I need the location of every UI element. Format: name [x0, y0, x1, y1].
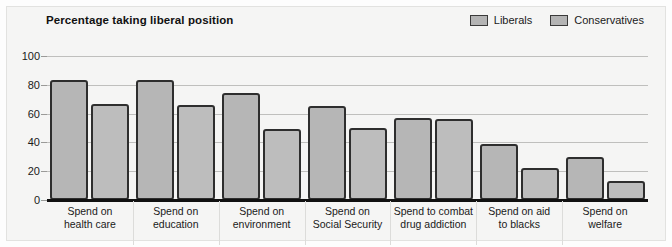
- bar-liberals-4: [394, 118, 432, 200]
- chart-legend: Liberals Conservatives: [470, 14, 644, 26]
- y-axis-tick-mark: [41, 171, 47, 172]
- y-axis: 020406080100: [0, 56, 40, 200]
- group-separator: [562, 201, 563, 245]
- y-axis-tick-label: 20: [6, 165, 40, 177]
- x-axis-label-4: Spend to combatdrug addiction: [390, 205, 476, 231]
- bar-liberals-3: [308, 106, 346, 200]
- x-axis-baseline: [47, 199, 648, 202]
- bar-conservatives-1: [177, 105, 215, 200]
- x-axis-label-1: Spend oneducation: [133, 205, 219, 231]
- legend-label-liberals: Liberals: [494, 14, 533, 26]
- x-axis-label-5: Spend on aidto blacks: [476, 205, 562, 231]
- y-axis-tick-mark: [41, 142, 47, 143]
- chart-title: Percentage taking liberal position: [46, 14, 233, 26]
- group-separator: [390, 201, 391, 245]
- legend-item-conservatives: Conservatives: [550, 14, 644, 26]
- bar-liberals-6: [566, 157, 604, 200]
- bar-conservatives-0: [91, 104, 129, 200]
- y-axis-tick-label: 40: [6, 136, 40, 148]
- y-axis-tick-label: 0: [6, 194, 40, 206]
- group-separator: [305, 201, 306, 245]
- x-axis-label-2: Spend onenvironment: [219, 205, 305, 231]
- y-axis-tick-label: 80: [6, 79, 40, 91]
- group-separator: [219, 201, 220, 245]
- group-separator: [133, 201, 134, 245]
- bar-liberals-1: [136, 80, 174, 200]
- x-axis-label-0: Spend onhealth care: [47, 205, 133, 231]
- bar-conservatives-2: [263, 129, 301, 200]
- bar-liberals-5: [480, 144, 518, 200]
- group-separator: [476, 201, 477, 245]
- legend-swatch-liberals-icon: [470, 15, 488, 26]
- chart-figure: Percentage taking liberal position Liber…: [0, 0, 672, 247]
- legend-label-conservatives: Conservatives: [574, 14, 644, 26]
- bar-conservatives-5: [521, 168, 559, 200]
- plot-area: [47, 56, 648, 200]
- legend-item-liberals: Liberals: [470, 14, 533, 26]
- x-axis-labels: Spend onhealth careSpend oneducationSpen…: [47, 205, 648, 245]
- x-axis-label-6: Spend onwelfare: [562, 205, 648, 231]
- y-axis-tick-mark: [41, 85, 47, 86]
- bar-conservatives-6: [607, 181, 645, 200]
- y-axis-tick-label: 60: [6, 108, 40, 120]
- bar-liberals-0: [50, 80, 88, 200]
- bar-conservatives-3: [349, 128, 387, 200]
- bar-conservatives-4: [435, 119, 473, 200]
- legend-swatch-conservatives-icon: [550, 15, 568, 26]
- y-axis-tick-mark: [41, 200, 47, 201]
- x-axis-label-3: Spend onSocial Security: [305, 205, 391, 231]
- y-axis-tick-label: 100: [6, 50, 40, 62]
- y-axis-tick-mark: [41, 114, 47, 115]
- bar-liberals-2: [222, 93, 260, 200]
- gridline: [47, 56, 648, 57]
- y-axis-tick-mark: [41, 56, 47, 57]
